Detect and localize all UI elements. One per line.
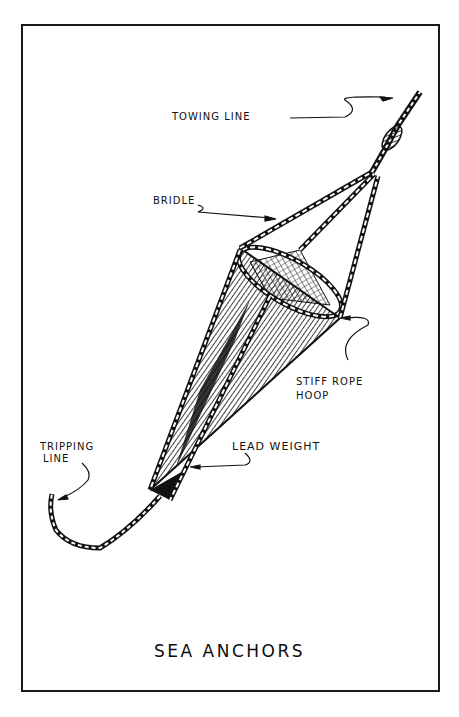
label-tripping: TRIPPING: [40, 441, 94, 453]
label-stiff-rope: STIFF ROPE: [296, 376, 363, 388]
sea-anchor-illustration: [0, 0, 459, 717]
label-bridle: BRIDLE: [153, 195, 195, 207]
label-lead-weight: LEAD WEIGHT: [232, 441, 320, 453]
label-tripping-line: LINE: [43, 453, 69, 465]
label-hoop: HOOP: [296, 390, 329, 402]
label-towing-line: TOWING LINE: [172, 111, 251, 123]
towing-line: [372, 92, 420, 172]
drogue-cone: [150, 248, 340, 500]
tripping-line: [51, 494, 160, 548]
figure-title: SEA ANCHORS: [0, 641, 459, 661]
